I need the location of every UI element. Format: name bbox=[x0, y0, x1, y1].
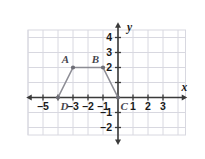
svg-text:1: 1 bbox=[130, 100, 136, 112]
coordinate-plane-svg: –5–3–2–1123–2–1234 ABCD xy bbox=[0, 0, 205, 159]
svg-text:y: y bbox=[125, 21, 133, 34]
svg-text:–3: –3 bbox=[67, 100, 79, 112]
svg-text:A: A bbox=[61, 53, 69, 65]
svg-text:2: 2 bbox=[145, 100, 151, 112]
svg-text:D: D bbox=[60, 100, 69, 112]
svg-text:3: 3 bbox=[160, 100, 166, 112]
svg-text:3: 3 bbox=[106, 46, 112, 58]
svg-text:C: C bbox=[121, 100, 129, 112]
svg-text:–2: –2 bbox=[82, 100, 94, 112]
svg-text:–2: –2 bbox=[100, 121, 112, 133]
coordinate-plane-figure: –5–3–2–1123–2–1234 ABCD xy bbox=[0, 0, 205, 159]
svg-text:–1: –1 bbox=[100, 106, 112, 118]
svg-text:2: 2 bbox=[106, 61, 112, 73]
svg-text:–5: –5 bbox=[37, 100, 49, 112]
svg-text:B: B bbox=[91, 53, 99, 65]
svg-text:x: x bbox=[180, 81, 187, 93]
svg-text:4: 4 bbox=[106, 31, 112, 43]
